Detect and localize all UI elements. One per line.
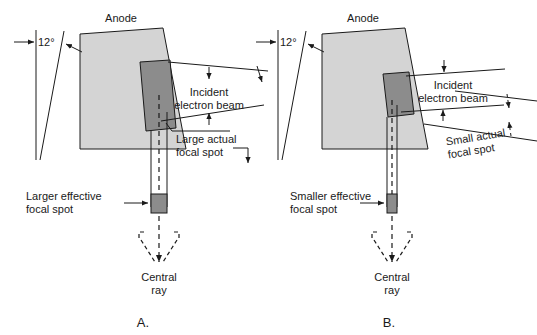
actual-focal-spot-label-line1-a: Large actual: [176, 133, 237, 145]
panel-a: Anode 12° Incident electron beam: [14, 12, 268, 330]
incident-beam-label-line2-b: electron beam: [418, 92, 488, 104]
central-ray-cone-left-a: [139, 232, 147, 238]
central-ray-cone-left-b: [372, 232, 380, 238]
central-ray-label-line1-a: Central: [141, 271, 176, 283]
effective-focal-spot-b: [387, 194, 397, 213]
actual-focal-spot-dimension-top-b: [507, 94, 509, 108]
incident-beam-label-line1-b: Incident: [434, 79, 473, 91]
effective-focal-spot-label-line1-b: Smaller effective: [290, 190, 371, 202]
actual-focal-spot-hook-a: [233, 148, 248, 163]
angle-slant-line-a: [40, 31, 64, 160]
central-ray-label-line2-a: ray: [151, 284, 167, 296]
actual-focal-spot-dimension-bottom-b: [509, 122, 511, 136]
central-ray-cone-side-left-a: [141, 240, 155, 262]
incident-beam-label-line1-a: Incident: [190, 86, 229, 98]
angle-slant-line-b: [282, 31, 306, 160]
panel-b: Anode 12° Incident electron beam: [256, 12, 537, 330]
effective-focal-spot-label-line2-a: focal spot: [26, 203, 73, 215]
incident-beam-label-line2-a: electron beam: [174, 99, 244, 111]
effective-focal-spot-a: [151, 194, 167, 213]
central-ray-label-line1-b: Central: [374, 271, 409, 283]
incident-beam-upper-line-a: [168, 62, 268, 71]
central-ray-cone-side-right-b: [396, 240, 410, 262]
effective-focal-spot-label-line1-a: Larger effective: [26, 190, 102, 202]
central-ray-cone-side-right-a: [163, 240, 177, 262]
angle-label-b: 12°: [280, 36, 297, 48]
effective-focal-spot-label-line2-b: focal spot: [290, 203, 337, 215]
actual-focal-spot-label-group-b: Small actual focal spot: [445, 126, 508, 160]
incident-beam-tick-right-a: [257, 66, 262, 82]
panel-label-b: B.: [383, 315, 395, 330]
actual-focal-spot-label-line2-a: focal spot: [176, 146, 223, 158]
actual-focal-spot-a: [140, 60, 176, 131]
incident-beam-upper-line-b: [406, 69, 505, 76]
central-ray-cone-side-left-b: [374, 240, 388, 262]
anode-body-b: [322, 28, 428, 149]
central-ray-label-line2-b: ray: [384, 284, 400, 296]
xray-anode-focal-spot-figure: Anode 12° Incident electron beam: [0, 0, 537, 335]
central-ray-cone-right-a: [171, 232, 179, 238]
central-ray-cone-right-b: [404, 232, 412, 238]
angle-label-a: 12°: [38, 36, 55, 48]
actual-focal-spot-b: [383, 72, 414, 117]
anode-label-b: Anode: [347, 12, 379, 24]
panel-label-a: A.: [137, 315, 149, 330]
diagram-canvas: Anode 12° Incident electron beam: [0, 0, 537, 335]
anode-label-a: Anode: [105, 12, 137, 24]
